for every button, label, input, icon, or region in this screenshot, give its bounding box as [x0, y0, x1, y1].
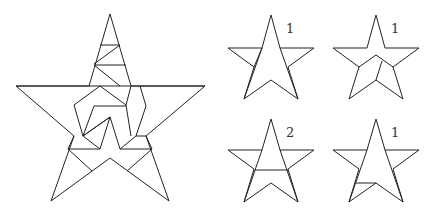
small-star-a: 1	[228, 15, 314, 99]
star-outline	[333, 15, 419, 99]
count-label: 1	[286, 21, 294, 36]
cut	[68, 136, 74, 149]
cut	[100, 86, 131, 136]
big-star-outline	[16, 14, 205, 201]
cut	[83, 117, 110, 136]
cut	[68, 149, 92, 171]
star-outline	[228, 119, 314, 202]
cut	[94, 65, 120, 86]
cut	[146, 136, 152, 149]
star-inner-lines	[244, 150, 262, 202]
count-label: 2	[286, 125, 294, 140]
star-inner-lines	[280, 48, 298, 99]
small-star-d: 1	[333, 119, 419, 202]
star-inner-lines	[376, 61, 382, 80]
star-inner-lines	[244, 48, 262, 99]
star-inner-lines	[385, 150, 403, 202]
star-outline	[228, 15, 314, 99]
cut	[127, 149, 152, 171]
star-outline	[333, 119, 419, 202]
star-inner-lines	[349, 150, 367, 202]
cut	[74, 86, 110, 149]
count-label: 1	[391, 125, 399, 140]
star-dissection-diagram: 1 1 2 1	[0, 0, 433, 212]
cut	[126, 86, 131, 105]
small-star-b: 1	[333, 15, 419, 99]
star-inner-lines	[359, 55, 393, 67]
cut	[83, 136, 100, 149]
star-inner-lines	[280, 150, 298, 202]
big-star	[16, 14, 205, 201]
small-star-c: 2	[228, 119, 314, 202]
cut	[136, 86, 146, 136]
count-label: 1	[391, 21, 399, 36]
